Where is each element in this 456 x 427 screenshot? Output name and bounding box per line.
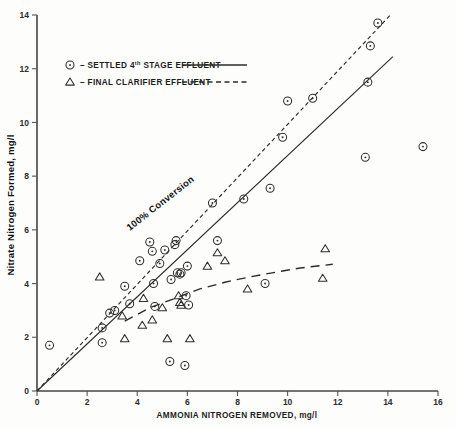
- y-tick-label: 0: [24, 386, 29, 396]
- conversion-reference-line: [37, 15, 390, 391]
- y-tick-label: 6: [24, 225, 29, 235]
- y-axis-title: Nitrate Nitrogen Formed, mg/l: [5, 134, 16, 275]
- data-point-circle-center: [109, 312, 111, 314]
- data-point-circle-center: [264, 283, 266, 285]
- data-point-circle-center: [243, 198, 245, 200]
- data-point-circle-center: [154, 305, 156, 307]
- y-axis-ticks: 02468101214: [20, 10, 37, 396]
- data-point-circle-center: [369, 45, 371, 47]
- data-point-triangle: [163, 335, 172, 342]
- y-tick-label: 4: [24, 279, 29, 289]
- data-point-circle-center: [69, 64, 71, 66]
- data-point-circle-center: [185, 295, 187, 297]
- data-point-circle-center: [151, 250, 153, 252]
- data-point-circle-center: [312, 97, 314, 99]
- data-point-triangle: [139, 294, 148, 301]
- x-tick-label: 10: [283, 397, 293, 407]
- data-point-circle-center: [377, 22, 379, 24]
- data-point-circle-center: [153, 283, 155, 285]
- data-point-triangle: [221, 257, 230, 264]
- data-point-circle-center: [364, 156, 366, 158]
- chart-container: 0246810121416 02468101214 AMMONIA NITROG…: [0, 0, 456, 427]
- scatter-plot: 0246810121416 02468101214 AMMONIA NITROG…: [0, 0, 456, 427]
- data-point-triangle: [148, 316, 157, 323]
- x-tick-label: 8: [235, 397, 240, 407]
- data-point-circle-center: [269, 187, 271, 189]
- data-point-triangle: [66, 78, 75, 85]
- x-tick-label: 16: [433, 397, 443, 407]
- x-tick-label: 14: [383, 397, 393, 407]
- data-point-triangle: [321, 245, 330, 252]
- data-point-circle-center: [129, 303, 131, 305]
- y-tick-label: 2: [24, 332, 29, 342]
- data-point-circle-center: [180, 272, 182, 274]
- data-point-circle-center: [101, 327, 103, 329]
- x-tick-label: 12: [333, 397, 343, 407]
- data-point-circle-center: [217, 240, 219, 242]
- data-point-triangle: [95, 273, 104, 280]
- legend-dash: –: [80, 61, 88, 70]
- data-point-circle-center: [188, 304, 190, 306]
- legend: – SETTLED 4th STAGE EFFLUENT– FINAL CLAR…: [66, 60, 247, 87]
- data-point-triangle: [318, 274, 327, 281]
- clarifier-effluent-fit-curve: [125, 264, 333, 321]
- x-tick-label: 0: [35, 397, 40, 407]
- x-axis-title: AMMONIA NITROGEN REMOVED, mg/l: [157, 411, 318, 420]
- data-point-circle-center: [422, 146, 424, 148]
- data-point-circle-center: [164, 249, 166, 251]
- data-point-triangle: [118, 312, 127, 319]
- data-point-circle-center: [49, 344, 51, 346]
- regression-curve-final-clarifier: [125, 264, 333, 321]
- data-point-circle-center: [175, 240, 177, 242]
- data-point-circle-center: [184, 365, 186, 367]
- data-point-circle-center: [211, 202, 213, 204]
- y-tick-label: 10: [20, 118, 30, 128]
- data-point-circle-center: [124, 285, 126, 287]
- y-tick-label: 12: [20, 64, 30, 74]
- y-tick-label: 8: [24, 171, 29, 181]
- data-point-triangle: [138, 321, 147, 328]
- data-point-triangle: [243, 285, 252, 292]
- legend-label-main: SETTLED 4: [88, 61, 135, 70]
- data-point-circle-center: [186, 265, 188, 267]
- data-point-circle-center: [282, 136, 284, 138]
- x-tick-label: 4: [135, 397, 140, 407]
- settled-effluent-fit-line: [37, 57, 393, 391]
- x-tick-label: 2: [85, 397, 90, 407]
- data-point-circle-center: [287, 100, 289, 102]
- data-point-circle-center: [149, 241, 151, 243]
- data-point-circle-center: [101, 342, 103, 344]
- data-point-triangle: [203, 262, 212, 269]
- regression-line-settled-4th-stage: [37, 57, 393, 391]
- data-point-triangle: [186, 335, 195, 342]
- data-points-final-clarifier: [95, 245, 329, 342]
- data-point-triangle: [213, 249, 222, 256]
- data-point-circle-center: [170, 279, 172, 281]
- data-points-settled-4th-stage: [46, 19, 427, 369]
- legend-dash: –: [80, 78, 88, 87]
- conversion-label: 100% Conversion: [124, 173, 196, 233]
- data-point-circle-center: [159, 262, 161, 264]
- data-point-triangle: [120, 335, 129, 342]
- reference-line-100-percent-conversion: [37, 15, 390, 391]
- x-tick-label: 6: [185, 397, 190, 407]
- data-point-circle-center: [169, 361, 171, 363]
- data-point-circle-center: [367, 81, 369, 83]
- x-axis-ticks: 0246810121416: [35, 391, 443, 407]
- data-point-circle-center: [139, 260, 141, 262]
- plot-annotations: 100% Conversion: [124, 173, 196, 233]
- y-tick-label: 14: [20, 10, 30, 20]
- data-point-circle-center: [114, 309, 116, 311]
